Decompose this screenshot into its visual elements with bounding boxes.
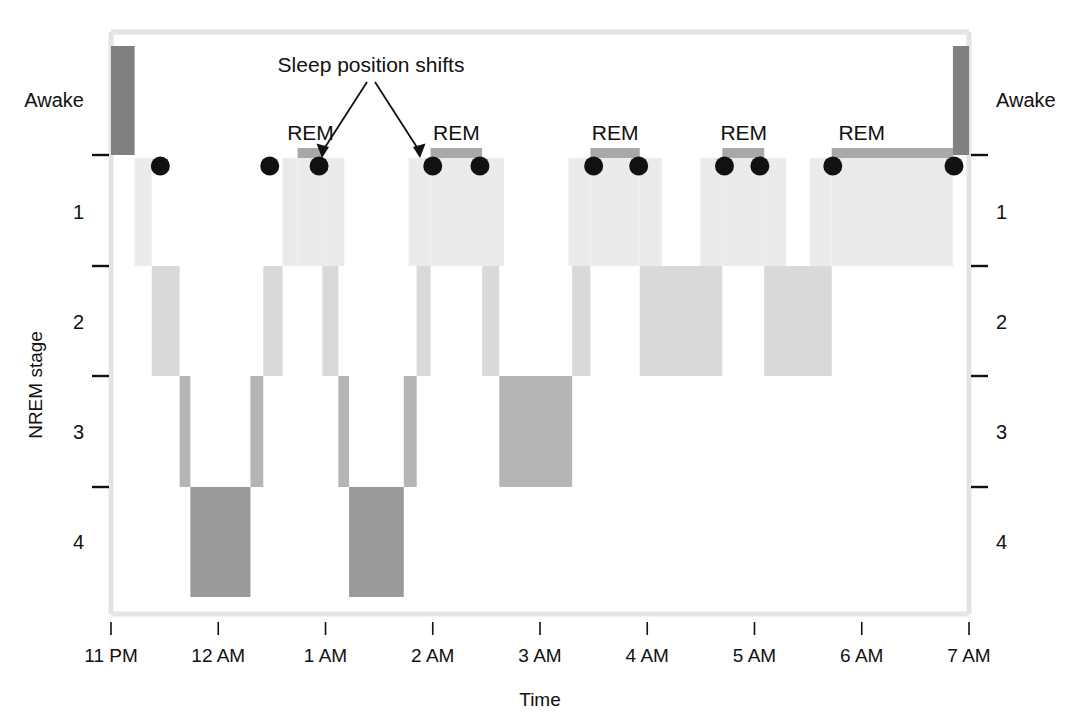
x-axis-tick-label: 11 PM xyxy=(84,645,138,666)
position-shift-marker xyxy=(944,157,963,176)
rem-label: REM xyxy=(838,121,885,144)
x-axis-tick-label: 5 AM xyxy=(733,645,776,666)
y-axis-stage-labels-left: Awake1234 xyxy=(24,89,84,553)
stage-block-2 xyxy=(572,266,590,376)
figure-container: REMREMREMREMREM 11 PM12 AM1 AM2 AM3 AM4 … xyxy=(0,0,1075,718)
stage-block-3 xyxy=(338,376,349,487)
awake-block xyxy=(111,46,135,155)
stage-connector-1 xyxy=(322,158,344,266)
position-shift-marker xyxy=(584,157,603,176)
rem-series-labels-group: REMREMREMREMREM xyxy=(287,121,885,144)
x-axis-title: Time xyxy=(519,689,561,710)
rem-band xyxy=(590,148,639,158)
stage-block-2 xyxy=(640,266,723,376)
position-shift-marker xyxy=(715,157,734,176)
y-axis-stage-label-right: 1 xyxy=(996,201,1007,223)
position-shift-marker xyxy=(470,157,489,176)
stage-segment xyxy=(482,266,499,376)
stage-segment xyxy=(499,376,572,487)
stage-segment xyxy=(111,46,135,155)
rem-label: REM xyxy=(433,121,480,144)
y-axis-stage-label-right: Awake xyxy=(996,89,1056,111)
y-axis-stage-label-left: 2 xyxy=(73,311,84,333)
position-shift-marker xyxy=(310,157,329,176)
x-axis-tick-label: 12 AM xyxy=(191,645,245,666)
stage-segment xyxy=(349,487,404,597)
stage-connector-1 xyxy=(482,158,504,266)
stage-block-2 xyxy=(152,266,180,376)
stage-connector-1 xyxy=(409,158,431,266)
annotation-arrow-right xyxy=(375,82,426,158)
rem-body xyxy=(431,158,482,266)
stage-block-3 xyxy=(250,376,263,487)
y-axis-stage-label-right: 4 xyxy=(996,531,1007,553)
stage-block-3 xyxy=(180,376,191,487)
y-axis-stage-label-left: 3 xyxy=(73,421,84,443)
rem-label: REM xyxy=(287,121,334,144)
y-axis-stage-labels-right: Awake1234 xyxy=(996,89,1056,553)
y-axis-ticks-right-group xyxy=(971,155,988,487)
awake-block xyxy=(953,46,969,155)
stage-segment xyxy=(250,376,263,487)
stage-block-1 xyxy=(135,158,152,266)
stage-block-2 xyxy=(263,266,282,376)
position-shift-marker xyxy=(151,157,170,176)
stage-segment xyxy=(417,266,431,376)
stage-block-1 xyxy=(283,158,298,266)
y-axis-stage-label-left: 1 xyxy=(73,201,84,223)
stage-connector-1 xyxy=(568,158,590,266)
stage-block-2 xyxy=(322,266,338,376)
stage-segment xyxy=(283,158,298,266)
rem-band xyxy=(832,148,953,158)
x-axis-tick-label: 6 AM xyxy=(840,645,883,666)
position-shift-marker xyxy=(629,157,648,176)
stage-segment xyxy=(322,266,338,376)
stage-segment xyxy=(263,266,282,376)
position-shift-marker xyxy=(260,157,279,176)
stage-block-4 xyxy=(349,487,404,597)
y-axis-title: NREM stage xyxy=(25,331,46,439)
stage-segment xyxy=(832,148,953,266)
position-shift-marker xyxy=(823,157,842,176)
x-axis-tick-label: 4 AM xyxy=(626,645,669,666)
stage-block-3 xyxy=(404,376,417,487)
rem-label: REM xyxy=(592,121,639,144)
rem-label: REM xyxy=(720,121,767,144)
stage-block-3 xyxy=(499,376,572,487)
stage-block-4 xyxy=(190,487,250,597)
y-axis-stage-label-right: 3 xyxy=(996,421,1007,443)
x-axis-ticks-group: 11 PM12 AM1 AM2 AM3 AM4 AM5 AM6 AM7 AM xyxy=(84,622,990,666)
stage-segment xyxy=(764,266,832,376)
stage-segment xyxy=(135,158,152,266)
y-axis-stage-label-left: 4 xyxy=(73,531,84,553)
rem-band xyxy=(298,148,323,158)
stage-segment xyxy=(404,376,417,487)
stage-block-2 xyxy=(417,266,431,376)
rem-band xyxy=(431,148,482,158)
stage-connector-1 xyxy=(700,158,722,266)
stage-connector-1 xyxy=(764,158,786,266)
stage-segment xyxy=(338,376,349,487)
stage-segment xyxy=(953,46,969,155)
x-axis-tick-label: 2 AM xyxy=(411,645,454,666)
y-axis-ticks-left-group xyxy=(92,155,109,487)
position-shift-marker xyxy=(423,157,442,176)
stage-segment xyxy=(190,487,250,597)
rem-band xyxy=(722,148,764,158)
stage-block-2 xyxy=(482,266,499,376)
stage-block-2 xyxy=(764,266,832,376)
stage-segment xyxy=(640,266,723,376)
position-shift-marker xyxy=(750,157,769,176)
x-axis-tick-label: 1 AM xyxy=(304,645,347,666)
annotation-label: Sleep position shifts xyxy=(278,53,465,76)
stage-segment xyxy=(572,266,590,376)
stage-segment xyxy=(180,376,191,487)
stage-segment xyxy=(152,266,180,376)
rem-body xyxy=(832,158,953,266)
x-axis-tick-label: 7 AM xyxy=(947,645,990,666)
sleep-hypnogram-chart: REMREMREMREMREM 11 PM12 AM1 AM2 AM3 AM4 … xyxy=(0,0,1075,718)
y-axis-stage-label-left: Awake xyxy=(24,89,84,111)
annotation-arrow-left xyxy=(317,82,368,158)
x-axis-tick-label: 3 AM xyxy=(518,645,561,666)
y-axis-stage-label-right: 2 xyxy=(996,311,1007,333)
